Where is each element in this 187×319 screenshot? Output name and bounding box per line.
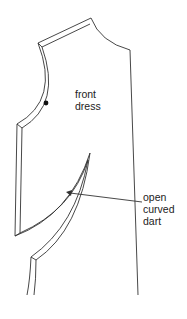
callout-label-line-2: curved [143,203,175,215]
neckline [91,18,130,50]
pattern-label-line-2: dress [75,100,101,112]
callout-arrow [70,193,142,202]
side-seam [15,124,17,236]
center-front-line [130,50,138,295]
callout-label: open curved dart [143,191,175,227]
pattern-label: front dress [75,88,101,112]
shoulder-seam [38,18,91,43]
dress-pattern-drawing [0,0,187,319]
callout-label-line-1: open [143,191,175,203]
callout-label-line-3: dart [143,215,175,227]
notch-dot [44,101,49,106]
pattern-label-line-1: front [75,88,101,100]
dart-leg-lower [36,153,90,260]
armhole [17,43,45,124]
